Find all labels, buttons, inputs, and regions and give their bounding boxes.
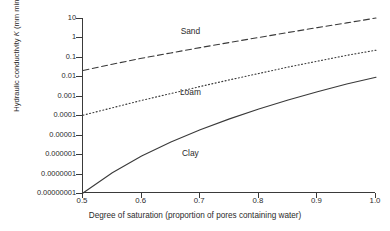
y-axis-ticks: 1010.10.010.0010.00010.000010.0000010.00… [0, 18, 76, 193]
plot-area [82, 18, 375, 193]
y-tick-label: 10 [0, 14, 76, 21]
series-curves [83, 18, 376, 193]
x-tick-mark [82, 193, 83, 198]
y-tick-label: 1 [0, 34, 76, 41]
series-label-clay: Clay [182, 148, 199, 158]
hydraulic-conductivity-chart: Hydraulic conductivity K (mm min−1) 1010… [0, 0, 390, 231]
y-tick-label: 0.0000001 [0, 170, 76, 177]
y-tick-label: 0.0001 [0, 112, 76, 119]
x-tick-mark [141, 193, 142, 198]
x-tick-mark [199, 193, 200, 198]
y-tick-label: 0.00000001 [0, 189, 76, 196]
series-label-loam: Loam [180, 87, 201, 97]
x-tick-mark [316, 193, 317, 198]
x-tick-mark [375, 193, 376, 198]
series-line-clay [83, 77, 376, 193]
y-tick-label: 0.000001 [0, 150, 76, 157]
series-label-sand: Sand [181, 26, 201, 36]
series-line-loam [83, 50, 376, 115]
y-tick-label: 0.01 [0, 73, 76, 80]
x-tick-mark [258, 193, 259, 198]
y-tick-label: 0.1 [0, 53, 76, 60]
y-tick-label: 0.001 [0, 92, 76, 99]
series-line-sand [83, 18, 376, 70]
x-axis-title: Degree of saturation (proportion of pore… [0, 211, 390, 220]
y-tick-label: 0.00001 [0, 131, 76, 138]
x-axis-ticks: 0.50.60.70.80.91.0 [82, 196, 375, 210]
